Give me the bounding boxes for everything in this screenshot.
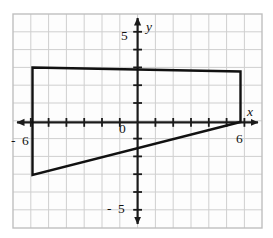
y-tick-label-minus-sign: - — [107, 201, 112, 216]
origin-label: 0 — [119, 121, 126, 136]
coordinate-plane-figure: y x 0 5 - 5 - 6 6 — [0, 0, 273, 238]
x-tick-label-6: 6 — [236, 131, 243, 146]
x-tick-label-minus6: 6 — [22, 133, 29, 148]
x-axis-label: x — [246, 104, 253, 119]
y-tick-label-5: 5 — [121, 28, 128, 43]
graph-canvas: y x 0 5 - 5 - 6 6 — [0, 0, 273, 238]
y-axis-label: y — [144, 19, 152, 34]
y-tick-label-minus5: 5 — [118, 201, 125, 216]
x-tick-label-minus-sign: - — [11, 133, 16, 148]
